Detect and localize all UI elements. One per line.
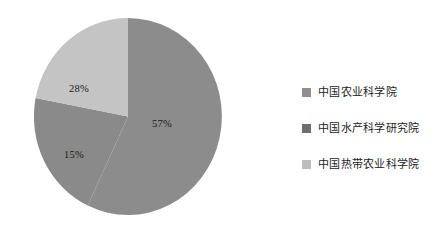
pie-chart-plot-area	[34, 18, 222, 215]
pie-slice-label-57: 57%	[152, 119, 172, 130]
legend-item-1[interactable]: 中国水产科学研究院	[302, 119, 446, 137]
legend-swatch-icon-0	[302, 88, 311, 97]
pie-slice-label-15: 15%	[64, 150, 84, 161]
pie-slice-label-28: 28%	[69, 84, 89, 95]
legend-swatch-icon-1	[302, 124, 311, 133]
legend-label-0: 中国农业科学院	[318, 87, 397, 98]
chart-legend: 中国农业科学院 中国水产科学研究院 中国热带农业科学院	[302, 83, 446, 173]
legend-label-2: 中国热带农业科学院	[318, 159, 420, 170]
pie-chart-svg	[34, 18, 222, 215]
legend-label-1: 中国水产科学研究院	[318, 123, 420, 134]
legend-item-2[interactable]: 中国热带农业科学院	[302, 155, 446, 173]
legend-item-0[interactable]: 中国农业科学院	[302, 83, 446, 101]
pie-chart-figure: 57% 28% 15% 中国农业科学院 中国水产科学研究院 中国热带农业科学院	[0, 0, 448, 232]
legend-swatch-icon-2	[302, 160, 311, 169]
